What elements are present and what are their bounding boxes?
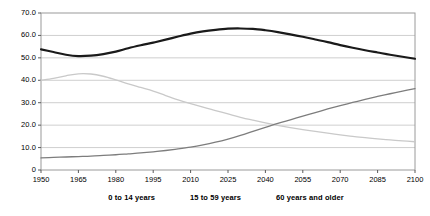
line-chart: 010.020.030.040.050.060.070.0 1950196519… (0, 0, 430, 216)
legend-item-0-to-14-years[interactable]: 0 to 14 years (86, 193, 155, 202)
y-axis-tick-label: 50.0 (21, 53, 36, 62)
y-axis-tick-label: 30.0 (21, 98, 36, 107)
x-axis-tick-label: 2070 (320, 175, 360, 184)
x-axis-tick-label: 2040 (245, 175, 285, 184)
y-axis-tick-label: 40.0 (21, 75, 36, 84)
legend-label-15-to-59-years: 15 to 59 years (190, 193, 241, 202)
plot-background (41, 13, 415, 170)
chart-legend: 0 to 14 years 15 to 59 years 60 years an… (0, 193, 430, 202)
x-axis-tick-label: 1950 (21, 175, 61, 184)
y-axis-tick-label: 60.0 (21, 30, 36, 39)
x-axis-tick-label: 2100 (395, 175, 430, 184)
y-axis-tick-label: 70.0 (21, 8, 36, 17)
x-axis-tick-label: 2085 (358, 175, 398, 184)
x-axis-tick-label: 1965 (58, 175, 98, 184)
y-axis-tick-label: 20.0 (21, 120, 36, 129)
legend-label-60-years-and-older: 60 years and older (276, 193, 344, 202)
legend-item-15-to-59-years[interactable]: 15 to 59 years (168, 193, 241, 202)
x-axis-tick-label: 1980 (96, 175, 136, 184)
y-axis-tick-label: 0 (32, 165, 36, 174)
x-axis-tick-label: 2010 (171, 175, 211, 184)
x-axis-tick-label: 1995 (133, 175, 173, 184)
legend-item-60-years-and-older[interactable]: 60 years and older (254, 193, 344, 202)
y-axis-tick-label: 10.0 (21, 143, 36, 152)
legend-label-0-to-14-years: 0 to 14 years (108, 193, 155, 202)
x-axis-tick-label: 2055 (283, 175, 323, 184)
x-axis-tick-label: 2025 (208, 175, 248, 184)
